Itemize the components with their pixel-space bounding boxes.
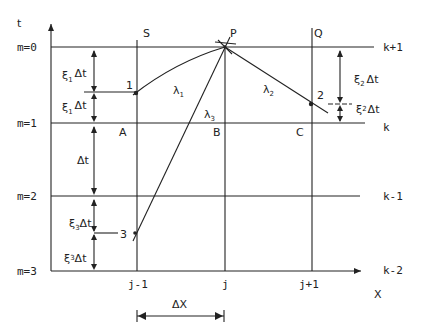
m3-label: m=3	[17, 265, 37, 278]
point-2	[309, 102, 313, 106]
characteristic-lambda3	[133, 37, 230, 241]
t-axis-label: t	[17, 17, 22, 30]
xi3p-dt-label: ξ3Δt	[64, 252, 87, 265]
B-label: B	[213, 126, 221, 139]
dx-label: ΔX	[172, 298, 188, 311]
point-3	[133, 231, 137, 235]
point-1-label: 1	[126, 79, 133, 92]
lambda1-label: λ1	[173, 84, 184, 99]
j-minus-1-label: j-1	[128, 278, 148, 291]
xi1p-dt-label: ξ1Δt	[62, 99, 87, 116]
xi3-dt-label: ξ3Δt	[69, 217, 92, 232]
j-plus-1-label: j+1	[299, 278, 319, 291]
k-minus-1-label: k-1	[383, 190, 403, 203]
P-label: P	[230, 27, 237, 40]
k-minus-2-label: k-2	[383, 264, 403, 277]
m2-label: m=2	[17, 190, 37, 203]
m0-label: m=0	[17, 41, 37, 54]
point-1	[134, 91, 138, 95]
S-label: S	[143, 27, 150, 40]
point-P	[224, 46, 227, 49]
lambda3-label: λ3	[204, 108, 215, 123]
x-axis-label: X	[374, 288, 382, 301]
A-label: A	[119, 126, 127, 139]
xi2-dt-label: ξ2Δt	[354, 73, 379, 88]
xi1-dt-label: ξ1Δt	[62, 67, 87, 84]
k-plus-1-label: k+1	[383, 41, 403, 54]
point-2-label: 2	[317, 89, 324, 102]
Q-label: Q	[314, 27, 323, 40]
dt-label: Δt	[77, 154, 90, 167]
lambda2-label: λ2	[263, 83, 274, 98]
C-label: C	[296, 126, 304, 139]
m1-label: m=1	[17, 117, 37, 130]
point-3-label: 3	[120, 228, 127, 241]
characteristics-grid-diagram: t X m=0 m=1 m=2 m=3 k+1 k k-1 k-2 j-1 j …	[0, 0, 423, 336]
j-label: j	[222, 278, 229, 291]
xi2p-dt-label: ξ2Δt	[356, 103, 380, 116]
k-label: k	[383, 121, 390, 134]
